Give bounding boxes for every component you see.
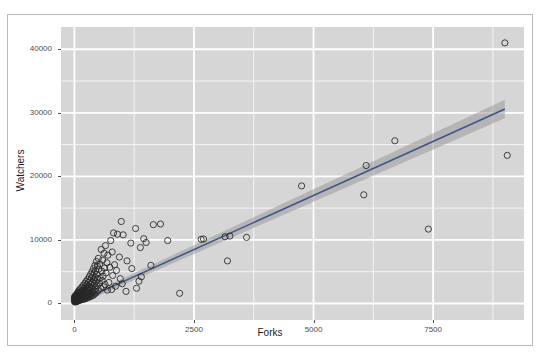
top-partial-text-row: · · · (0, 0, 541, 10)
scatter-point (105, 252, 111, 258)
scatter-point (123, 288, 129, 294)
scatter-point (150, 222, 156, 228)
scatter-point (504, 152, 510, 158)
x-tick-mark (314, 320, 315, 323)
y-tick-label: 10000 (8, 235, 52, 244)
scatter-point (120, 232, 126, 238)
top-partial-text: · · · (0, 0, 15, 4)
scatter-point (109, 249, 115, 255)
x-tick-mark (433, 320, 434, 323)
scatter-point (224, 258, 230, 264)
scatter-point (111, 262, 117, 268)
confidence-ribbon (77, 100, 505, 305)
scatter-point (298, 183, 304, 189)
scatter-point (124, 258, 130, 264)
scatter-point (177, 290, 183, 296)
scatter-point (392, 138, 398, 144)
ggplot-figure: Watchers Forks 010000200003000040000 025… (8, 15, 532, 345)
x-tick-mark (74, 320, 75, 323)
scatter-point (361, 192, 367, 198)
x-tick-label: 7500 (413, 325, 453, 334)
scatter-point (114, 231, 120, 237)
scatter-point (128, 240, 134, 246)
x-tick-label: 2500 (174, 325, 214, 334)
scatter-point (137, 244, 143, 250)
scatter-point (106, 279, 112, 285)
y-tick-label: 30000 (8, 108, 52, 117)
scatter-point (110, 272, 116, 278)
plot-panel (61, 27, 524, 320)
scatter-point (118, 218, 124, 224)
scatter-point (133, 225, 139, 231)
x-tick-label: 0 (54, 325, 94, 334)
x-tick-label: 5000 (294, 325, 334, 334)
scatter-point (425, 226, 431, 232)
x-tick-mark (194, 320, 195, 323)
figure-card: Watchers Forks 010000200003000040000 025… (7, 14, 533, 346)
y-tick-label: 0 (8, 298, 52, 307)
y-tick-label: 40000 (8, 44, 52, 53)
scatter-point (502, 40, 508, 46)
scatter-point (157, 221, 163, 227)
scatter-point (116, 254, 122, 260)
screenshot-root: · · · Watchers Forks 0100002000030000400… (0, 0, 541, 360)
scatter-points (71, 40, 510, 305)
plot-svg (61, 27, 524, 320)
scatter-point (111, 230, 117, 236)
y-tick-label: 20000 (8, 171, 52, 180)
